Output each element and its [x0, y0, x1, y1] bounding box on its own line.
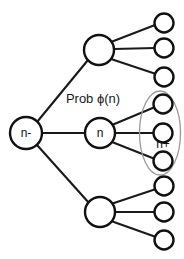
edges-branch-middle-to-leaves — [112, 107, 155, 159]
edges-root-to-branches — [37, 60, 89, 203]
tree-diagram-canvas: n- n Prob ϕ(n) n+ — [0, 0, 184, 259]
n-plus-group-label: n+ — [156, 137, 170, 151]
leaf-node-bottom-2[interactable] — [155, 203, 174, 222]
leaf-node-bottom-1[interactable] — [155, 177, 174, 196]
root-node-label: n- — [21, 126, 32, 140]
leaf-node-top-3[interactable] — [155, 68, 174, 87]
branch-node-top[interactable] — [84, 35, 114, 65]
prob-annotation-label: Prob ϕ(n) — [66, 91, 120, 106]
edges-branch-bottom-to-leaves — [111, 189, 156, 237]
leaf-node-middle-3[interactable] — [154, 152, 173, 171]
edges-branch-top-to-leaves — [111, 25, 156, 74]
leaf-node-top-1[interactable] — [155, 14, 174, 33]
edge-branch-bottom-leaf-3 — [111, 221, 156, 237]
branch-node-middle-label: n — [97, 126, 104, 140]
edge-branch-top-leaf-3 — [111, 59, 156, 74]
edge-branch-bottom-leaf-1 — [111, 189, 156, 204]
edge-branch-top-leaf-2 — [114, 48, 155, 49]
edge-branch-middle-leaf-3 — [112, 142, 155, 159]
leaf-node-top-2[interactable] — [155, 39, 174, 58]
tree-diagram-svg: n- n Prob ϕ(n) n+ — [0, 0, 184, 259]
leaf-node-middle-1[interactable] — [154, 95, 173, 114]
branch-node-bottom[interactable] — [85, 197, 115, 227]
leaf-node-bottom-3[interactable] — [155, 231, 174, 250]
edge-branch-top-leaf-1 — [111, 25, 155, 42]
edge-root-to-branch-bottom — [37, 145, 89, 203]
edge-branch-middle-leaf-1 — [112, 107, 155, 125]
leaf-nodes — [154, 14, 174, 250]
